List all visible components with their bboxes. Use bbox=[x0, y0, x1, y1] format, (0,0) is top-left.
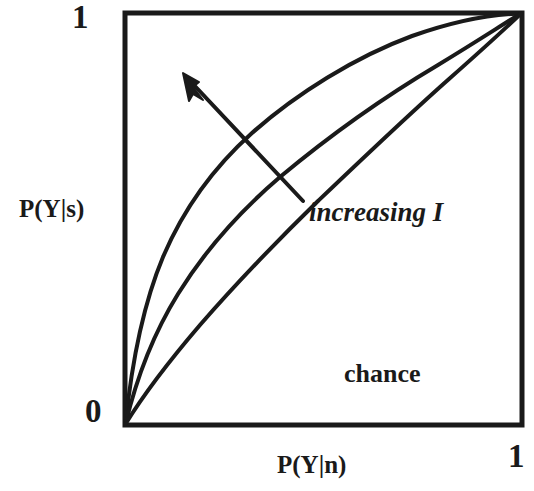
increasing-arrow-head bbox=[183, 73, 203, 101]
annotation-chance: chance bbox=[344, 361, 421, 387]
x-axis-title: P(Y|n) bbox=[277, 452, 346, 477]
increasing-arrow-shaft bbox=[193, 84, 303, 201]
y-axis-tick-max: 1 bbox=[72, 1, 89, 34]
x-axis-tick-max: 1 bbox=[508, 440, 525, 473]
roc-figure: 1 0 1 P(Y|s) P(Y|n) increasing I chance bbox=[0, 0, 534, 491]
y-axis-title: P(Y|s) bbox=[19, 196, 84, 221]
roc-plot-svg bbox=[0, 0, 534, 491]
y-axis-tick-min: 0 bbox=[85, 395, 102, 428]
annotation-increasing-information: increasing I bbox=[309, 199, 443, 226]
